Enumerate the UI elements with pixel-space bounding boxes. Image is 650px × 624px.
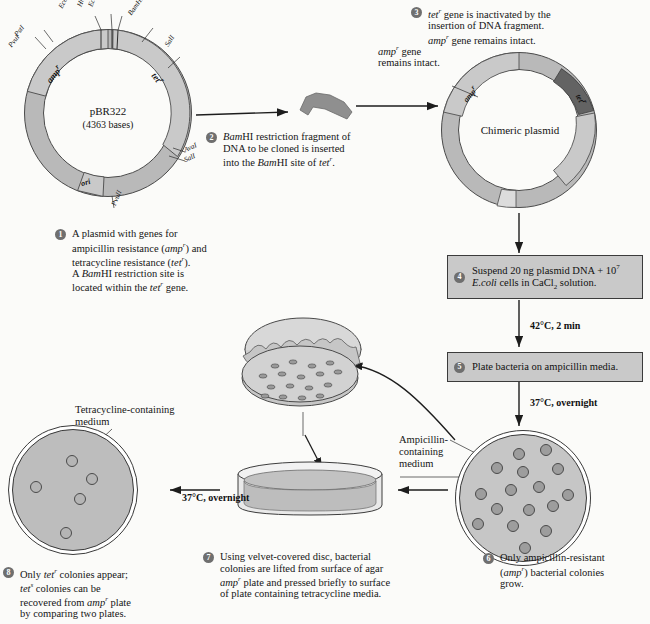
step-1-caption: 1 A plasmid with genes for ampicillin re… [55, 228, 280, 293]
tetracycline-plate [8, 425, 138, 555]
colony [66, 455, 78, 467]
step-3-marker: 3 [411, 7, 422, 18]
arrow-amp-to-velvet [352, 365, 455, 440]
chimeric-plasmid-name: Chimeric plasmid [465, 124, 575, 137]
step-2-marker: 2 [206, 132, 217, 143]
petri-dish-side-view [238, 462, 382, 515]
step-1-text: A plasmid with genes for ampicillin resi… [72, 228, 207, 293]
site-label-pvui: PvuI [7, 33, 22, 49]
velvet-covered-disc [242, 318, 361, 406]
step-2-text: BamHI restriction fragment of DNA to be … [223, 131, 350, 168]
site-label-ecorv: EcoRV [87, 0, 102, 8]
step-7-marker: 7 [203, 552, 214, 563]
pbr322-tet-label: tetr [150, 70, 167, 87]
condition-incubate-tet: 37°C, overnight [182, 492, 249, 503]
arrow-velvet-to-dish [305, 435, 322, 468]
pbr322-amp-label: ampr [43, 63, 64, 85]
colony [491, 503, 503, 515]
colony [505, 484, 517, 496]
step-2-caption: 2 BamHI restriction fragment of DNA to b… [206, 131, 391, 168]
colony [533, 481, 545, 493]
colony [472, 518, 484, 530]
colony [507, 520, 519, 532]
colony [513, 448, 525, 460]
colony [491, 462, 503, 474]
site-label-bamhi: BamHI [126, 0, 144, 17]
condition-heat-shock: 42°C, 2 min [530, 320, 580, 331]
amp-gene-arc [27, 29, 108, 96]
step-3-text: tetr gene is inactivated by the insertio… [428, 6, 551, 46]
pbr322-name: pBR322(4363 bases) [58, 105, 158, 131]
pbr322-ori-label: ori [80, 177, 91, 188]
step-6-marker: 6 [483, 553, 494, 564]
colony [86, 473, 98, 485]
step-5-box: 5 Plate bacteria on ampicillin media. [447, 352, 643, 382]
chimeric-tet-label: tetr [574, 91, 589, 106]
cloning-diagram-page: { "figure": { "title": "Molecular clonin… [0, 0, 650, 624]
ampicillin-plate [455, 430, 591, 566]
site-label-pvuii: PvuII [110, 189, 123, 207]
colony [74, 493, 86, 505]
colony [547, 500, 559, 512]
step-8-caption: 8 Only tetr colonies appear; tets coloni… [3, 566, 193, 620]
tetracycline-medium-label: Tetracycline-containing medium [75, 404, 205, 428]
dna-fragment [300, 93, 352, 119]
step-5-text: Plate bacteria on ampicillin media. [472, 361, 618, 374]
colony [562, 489, 574, 501]
velvet-disc-colonies [259, 360, 342, 400]
colony [540, 444, 552, 456]
amp-intact-annotation: ampr generemains intact. [378, 43, 468, 69]
step-5-marker: 5 [454, 362, 465, 373]
tet-gene-arc [113, 30, 190, 157]
colony [475, 488, 487, 500]
step-4-box: 4 Suspend 20 ng plasmid DNA + 107 E.coli… [447, 255, 643, 299]
site-label-ecori: EcoRI [57, 0, 72, 10]
colony [552, 463, 564, 475]
site-label-sali-lower: SalI [183, 152, 197, 164]
step-7-text: Using velvet-covered disc, bacterial col… [220, 551, 390, 600]
colony [517, 466, 529, 478]
arrow-plasmid-to-fragment [196, 112, 288, 115]
inserted-dna-fragment [554, 69, 594, 115]
step-6-caption: 6 Only ampicillin-resistant (ampr) bacte… [483, 552, 643, 589]
step-8-marker: 8 [3, 567, 14, 578]
site-label-sali-right: SalI [163, 34, 176, 48]
step-7-caption: 7 Using velvet-covered disc, bacterial c… [203, 551, 438, 600]
colony [30, 481, 42, 493]
step-3-caption: 3 tetr gene is inactivated by the insert… [411, 6, 626, 46]
colony [523, 504, 535, 516]
step-4-marker: 4 [454, 272, 465, 283]
condition-incubate-amp: 37°C, overnight [530, 397, 597, 408]
velvet-cloth [243, 339, 360, 371]
step-6-text: Only ampicillin-resistant (ampr) bacteri… [500, 552, 605, 589]
ampicillin-medium-label: Ampicillin- containing medium [399, 434, 461, 470]
step-1-marker: 1 [55, 229, 66, 240]
chimeric-amp-label: ampr [459, 84, 479, 104]
colony [540, 525, 552, 537]
step-4-text: Suspend 20 ng plasmid DNA + 107 E.coli c… [472, 261, 620, 294]
colony [60, 527, 72, 539]
step-8-text: Only tetr colonies appear; tets colonies… [20, 566, 131, 620]
